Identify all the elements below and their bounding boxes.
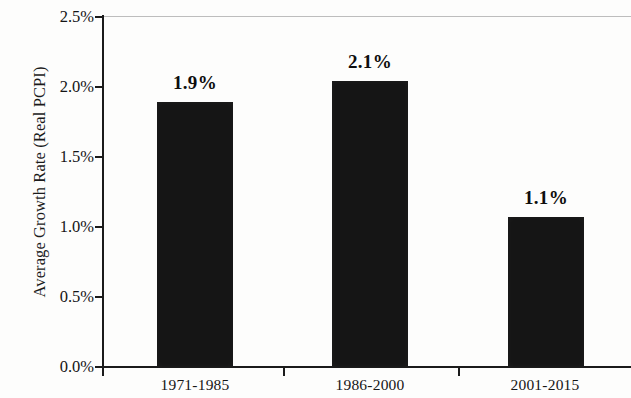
- y-axis-tick: [95, 156, 103, 158]
- y-tick-label: 0.0%: [38, 359, 94, 376]
- x-axis-category-label: 1971-1985: [120, 376, 270, 394]
- bar[interactable]: [157, 102, 233, 367]
- bar-value-label: 1.9%: [137, 72, 253, 94]
- plot-area: 1.9% 2.1% 1.1%: [103, 16, 631, 367]
- x-axis-tick: [458, 368, 460, 376]
- y-axis-tick: [95, 86, 103, 88]
- bar-value-label: 1.1%: [488, 187, 604, 209]
- y-axis-tick: [95, 226, 103, 228]
- x-axis-tick: [102, 368, 104, 376]
- y-axis-tick-labels: 2.5% 2.0% 1.5% 1.0% 0.5% 0.0%: [38, 0, 94, 398]
- y-axis-tick: [95, 296, 103, 298]
- x-axis-tick: [283, 368, 285, 376]
- y-tick-label: 0.5%: [38, 289, 94, 306]
- y-tick-label: 2.0%: [38, 79, 94, 96]
- bar[interactable]: [332, 81, 408, 367]
- bar[interactable]: [508, 217, 584, 367]
- bar-chart: Average Growth Rate (Real PCPI) 2.5% 2.0…: [0, 0, 631, 398]
- y-tick-label: 1.5%: [38, 149, 94, 166]
- y-tick-label: 2.5%: [38, 9, 94, 26]
- bar-value-label: 2.1%: [312, 51, 428, 73]
- x-axis-category-label: 1986-2000: [295, 376, 445, 394]
- x-axis-category-label: 2001-2015: [470, 376, 620, 394]
- y-axis-tick: [95, 16, 103, 18]
- y-tick-label: 1.0%: [38, 219, 94, 236]
